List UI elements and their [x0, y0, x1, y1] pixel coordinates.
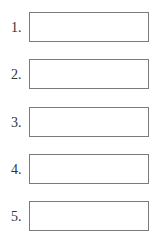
answer-field-5[interactable]: [29, 201, 149, 231]
answer-row-2: 2.: [0, 59, 166, 90]
item-number-4: 4.: [11, 154, 29, 185]
answer-field-2[interactable]: [29, 59, 149, 89]
item-number-5: 5.: [11, 201, 29, 232]
answer-field-3[interactable]: [29, 107, 149, 137]
item-number-3: 3.: [11, 107, 29, 138]
item-number-2: 2.: [11, 59, 29, 90]
answer-field-1[interactable]: [29, 12, 149, 42]
answer-row-3: 3.: [0, 107, 166, 138]
answer-row-4: 4.: [0, 154, 166, 185]
answer-row-1: 1.: [0, 12, 166, 43]
answer-field-4[interactable]: [29, 154, 149, 184]
item-number-1: 1.: [11, 12, 29, 43]
answer-row-5: 5.: [0, 201, 166, 232]
